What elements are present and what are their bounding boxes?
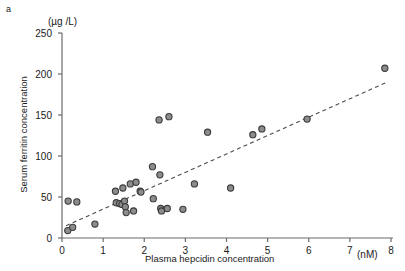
data-point [150, 196, 156, 202]
data-point [191, 181, 197, 187]
data-point [120, 185, 126, 191]
data-point [130, 208, 136, 214]
data-point [259, 126, 265, 132]
data-point [65, 198, 71, 204]
data-point [74, 199, 80, 205]
data-point [157, 172, 163, 178]
tick-marks [58, 33, 391, 242]
data-point [204, 129, 210, 135]
data-point [122, 204, 128, 210]
data-point [149, 164, 155, 170]
data-point [250, 132, 256, 138]
data-point [133, 179, 139, 185]
data-point [166, 114, 172, 120]
data-point [92, 221, 98, 227]
data-points [65, 65, 388, 234]
data-point [382, 65, 388, 71]
data-point [180, 206, 186, 212]
data-point [156, 117, 162, 123]
data-point [164, 205, 170, 211]
axis-lines [62, 33, 393, 238]
data-point [138, 189, 144, 195]
data-point [123, 209, 129, 215]
figure-panel-a: a (µg /L) (nM) Serum ferritin concentrat… [0, 0, 405, 271]
data-point [121, 198, 127, 204]
data-point [70, 224, 76, 230]
data-point [228, 185, 234, 191]
scatter-plot-canvas [0, 0, 405, 271]
data-point [304, 116, 310, 122]
data-point [112, 188, 118, 194]
